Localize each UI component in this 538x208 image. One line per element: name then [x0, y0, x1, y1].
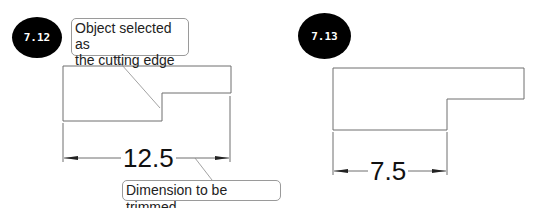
arrowhead-left-7-12	[64, 156, 78, 160]
arrowhead-left-7-13	[334, 169, 348, 173]
figure-badge-7-12: 7.12	[12, 17, 62, 58]
callout-cutting-edge-line1: Object selected as	[75, 20, 185, 52]
dimension-value-7-13: 7.5	[368, 158, 408, 184]
stepped-profile-7-13	[333, 68, 524, 130]
figure-badge-7-13: 7.13	[298, 13, 351, 59]
arrowhead-right-7-12	[215, 156, 229, 160]
leader-dimension	[195, 158, 212, 180]
callout-dimension-trimmed: Dimension to be trimmed	[122, 180, 281, 201]
callout-cutting-edge: Object selected as the cutting edge	[71, 18, 189, 56]
callout-cutting-edge-line2: the cutting edge	[75, 52, 185, 68]
arrowhead-right-7-13	[432, 169, 446, 173]
dimension-value-7-12: 12.5	[121, 145, 176, 171]
